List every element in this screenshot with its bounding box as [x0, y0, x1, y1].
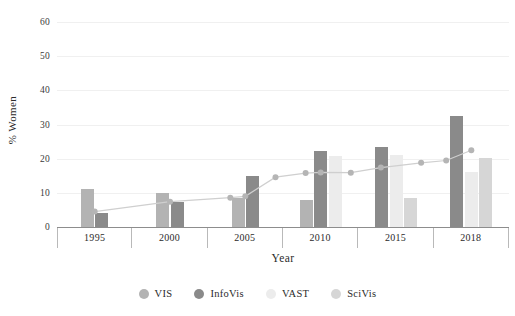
y-tick-label: 40 [10, 85, 50, 95]
trend-line-point [92, 209, 98, 215]
x-axis-band: 2005 [208, 228, 283, 248]
trend-line-point [303, 170, 309, 176]
x-tick-label: 2000 [132, 232, 206, 243]
x-axis-band: 1995 [57, 228, 132, 248]
legend-item-vis[interactable]: VIS [139, 288, 173, 299]
legend-label: VIS [155, 288, 173, 299]
trend-line-point [167, 199, 173, 205]
legend-label: VAST [282, 288, 309, 299]
y-tick-label: 20 [10, 154, 50, 164]
legend-swatch-icon [266, 289, 276, 299]
x-tick-label: 2015 [358, 232, 432, 243]
trend-line [57, 12, 509, 227]
plot-area [57, 12, 509, 227]
x-axis-band: 2010 [283, 228, 358, 248]
y-tick-label: 30 [10, 120, 50, 130]
legend-label: InfoVis [210, 288, 244, 299]
x-tick-label: 2010 [283, 232, 357, 243]
x-axis-band: 2015 [358, 228, 433, 248]
legend-label: SciVis [347, 288, 376, 299]
y-axis-ticks: 0102030405060 [0, 12, 50, 227]
legend-swatch-icon [331, 289, 341, 299]
legend-swatch-icon [139, 289, 149, 299]
legend-item-scivis[interactable]: SciVis [331, 288, 376, 299]
legend-item-vast[interactable]: VAST [266, 288, 309, 299]
x-tick-label: 1995 [58, 232, 131, 243]
trend-line-path [95, 150, 472, 211]
y-tick-label: 10 [10, 188, 50, 198]
trend-line-point [418, 160, 424, 166]
x-tick-label: 2018 [434, 232, 508, 243]
x-axis-band: 2018 [434, 228, 509, 248]
y-tick-label: 60 [10, 17, 50, 27]
x-axis-label: Year [57, 252, 509, 264]
chart-figure: % Women 0102030405060 199520002005201020… [0, 0, 515, 316]
trend-line-point [468, 147, 474, 153]
y-tick-label: 0 [10, 222, 50, 232]
trend-line-point [227, 195, 233, 201]
legend-swatch-icon [194, 289, 204, 299]
trend-line-point [273, 174, 279, 180]
trend-line-point [318, 169, 324, 175]
trend-line-point [348, 170, 354, 176]
x-axis-band: 2000 [132, 228, 207, 248]
trend-line-point [378, 165, 384, 171]
y-tick-label: 50 [10, 51, 50, 61]
x-tick-label: 2005 [208, 232, 282, 243]
trend-line-point [443, 158, 449, 164]
trend-line-point [242, 193, 248, 199]
legend-item-infovis[interactable]: InfoVis [194, 288, 244, 299]
chart-legend: VISInfoVisVASTSciVis [0, 288, 515, 299]
